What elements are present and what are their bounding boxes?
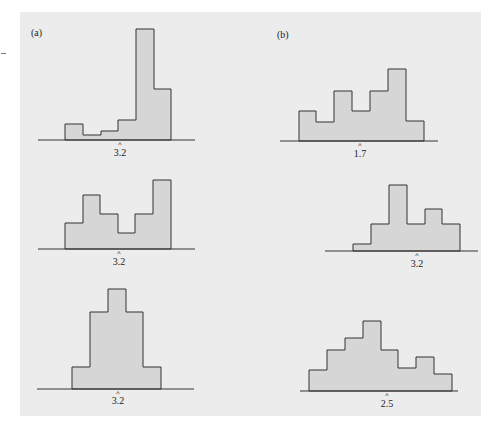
histogram-figure: (a) (b) ^3.2^3.2^3.2^1.7^3.2^2.5	[0, 0, 498, 432]
histogram-a-top: ^3.2	[38, 29, 195, 158]
histogram-b-top: ^1.7	[280, 69, 438, 159]
mean-value-label: 3.2	[112, 395, 125, 406]
histogram-b-bottom: ^2.5	[300, 321, 458, 409]
mean-value-label: 3.2	[114, 147, 127, 158]
panel-a-label: (a)	[31, 27, 42, 39]
histogram-bars	[65, 180, 171, 249]
histogram-bars	[72, 289, 161, 389]
mean-value-label: 2.5	[381, 398, 394, 409]
mean-value-label: 1.7	[354, 148, 367, 159]
histogram-b-middle: ^3.2	[325, 185, 478, 269]
panel-b-label: (b)	[277, 29, 289, 41]
histogram-bars	[309, 321, 452, 391]
histogram-bars	[65, 29, 171, 140]
histogram-bars	[299, 69, 424, 141]
histogram-a-middle: ^3.2	[38, 180, 195, 267]
histogram-a-bottom: ^3.2	[37, 289, 194, 406]
histograms: ^3.2^3.2^3.2^1.7^3.2^2.5	[37, 29, 478, 409]
histogram-bars	[353, 185, 460, 251]
mean-value-label: 3.2	[113, 256, 126, 267]
mean-value-label: 3.2	[411, 258, 424, 269]
